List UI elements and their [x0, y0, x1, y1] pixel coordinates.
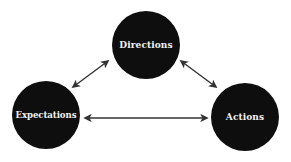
- arrow-expectations-directions: [73, 61, 108, 87]
- triangle-cycle-diagram: Directions Expectations Actions: [0, 0, 291, 162]
- node-label-expectations: Expectations: [16, 110, 77, 120]
- node-label-actions: Actions: [226, 112, 264, 122]
- node-label-directions: Directions: [119, 40, 172, 50]
- node-expectations: Expectations: [12, 81, 80, 149]
- node-actions: Actions: [211, 83, 279, 151]
- node-directions: Directions: [112, 11, 180, 79]
- arrow-directions-actions: [181, 61, 216, 87]
